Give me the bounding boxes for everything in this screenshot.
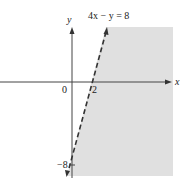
x-axis-label: x <box>174 76 180 87</box>
inequality-graph: −8 0 2 x y 4x − y = 8 <box>0 0 182 192</box>
y-axis-arrow-icon <box>70 27 75 34</box>
equation-label: 4x − y = 8 <box>88 10 129 21</box>
shaded-region <box>67 27 173 176</box>
x-intercept-label: 2 <box>92 84 97 95</box>
y-intercept-label: −8 <box>57 159 68 170</box>
origin-label: 0 <box>62 84 67 95</box>
y-axis-label: y <box>66 14 72 25</box>
